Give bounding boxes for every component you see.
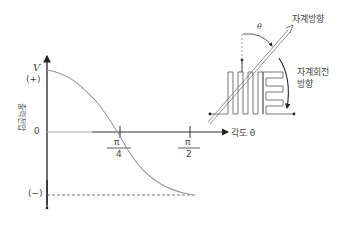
y-minus-label: (−) (28, 188, 43, 198)
y-axis-title: 출력전압 (17, 103, 28, 131)
y-axis-symbol: V (33, 62, 40, 73)
y-zero-label: 0 (34, 126, 40, 136)
tick-pi-numerator-1: π (114, 137, 119, 147)
theta-arc (243, 34, 272, 46)
x-axis (47, 126, 228, 148)
field-direction-arrow (208, 25, 293, 124)
tick-denominator-4: 4 (116, 149, 122, 159)
field-direction-label: 자계방향 (292, 12, 324, 25)
tick-pi-numerator-2: π (185, 137, 190, 147)
x-axis-title: 각도 θ (231, 126, 255, 139)
y-axis (46, 56, 49, 209)
diagram-canvas (0, 0, 346, 227)
sensor-pattern (210, 72, 295, 114)
rotation-arc (279, 58, 288, 108)
theta-label: θ (257, 22, 262, 31)
y-plus-label: (+) (26, 74, 41, 84)
rotation-direction-label-2: 방향 (297, 77, 313, 90)
tick-denominator-2: 2 (186, 149, 192, 159)
